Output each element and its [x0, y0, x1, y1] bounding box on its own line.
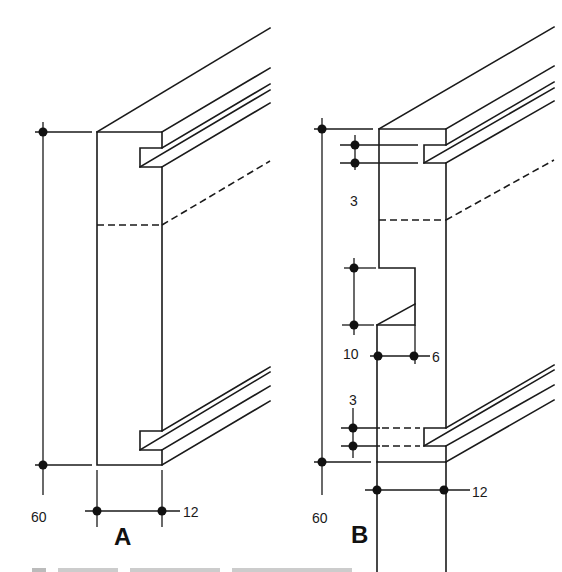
view-a-label: A [114, 523, 131, 550]
view-b-notch-depth-value: 6 [432, 349, 440, 365]
view-b-notch-depth-dimension: 6 [370, 325, 440, 365]
view-b-hidden-line [446, 160, 554, 220]
view-b-groove-line [424, 370, 554, 446]
view-b-groove-line [446, 82, 554, 145]
view-b-notch-height-value: 10 [343, 346, 359, 362]
view-b-height-dimension: 60 [312, 118, 373, 526]
caption-remnant [32, 568, 352, 572]
view-b-notch-height-dimension: 10 [342, 258, 376, 362]
view-b-groove-line [446, 101, 554, 163]
view-a-front-face [97, 132, 162, 465]
view-b-bottom-groove-value: 3 [349, 392, 357, 408]
view-a-height-dimension: 60 [31, 122, 92, 525]
view-a-groove-line [162, 84, 270, 148]
view-b-bottom-groove-dimension: 3 [341, 392, 380, 458]
view-a-height-value: 60 [31, 509, 47, 525]
technical-drawing: 60 12 A [0, 0, 562, 572]
view-a-groove-line [140, 372, 270, 450]
view-a-hidden-line [162, 161, 270, 225]
view-a-groove-line [162, 103, 270, 167]
view-b-width-value: 12 [472, 484, 488, 500]
view-b-width-dimension: 12 [365, 484, 488, 500]
view-b: 60 3 10 6 [312, 27, 554, 572]
view-a-bottom-edge [162, 401, 270, 465]
view-a-groove-line [140, 90, 270, 167]
view-b-groove-line [446, 365, 554, 428]
view-a-width-value: 12 [183, 504, 199, 520]
view-b-top-back-edge [379, 27, 554, 129]
view-b-bottom-edge [446, 400, 554, 462]
view-b-groove-line [446, 385, 554, 446]
view-a: 60 12 A [31, 28, 270, 550]
view-a-groove-line [162, 386, 270, 450]
view-b-top-groove-value: 3 [350, 193, 358, 209]
view-b-groove-line [424, 88, 554, 163]
view-a-width-dimension: 12 [85, 470, 199, 527]
view-a-top-back-edge [97, 28, 270, 132]
view-b-label: B [351, 521, 368, 548]
view-b-notch-bevel [377, 304, 415, 325]
view-b-height-value: 60 [312, 510, 328, 526]
view-a-groove-line [162, 367, 270, 431]
view-b-front-face [377, 129, 446, 462]
